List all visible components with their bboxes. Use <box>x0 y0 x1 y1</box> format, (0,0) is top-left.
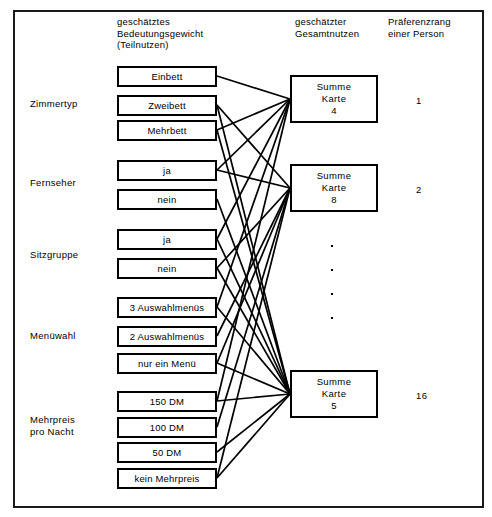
attribute-label-mehrpreis: Mehrpreis pro Nacht <box>30 414 75 438</box>
sum-box-line2: Karte <box>322 388 347 400</box>
sum-box-line1: Summe <box>317 81 352 93</box>
level-box-sitzgruppe-nein[interactable]: nein <box>117 258 217 279</box>
attribute-label-zimmertyp: Zimmertyp <box>30 98 78 110</box>
column-header-weight: geschätztes Bedeutungsgewicht (Teilnutze… <box>117 16 203 51</box>
sum-box-card-number: 8 <box>331 194 337 206</box>
level-box-2-auswahlmenues[interactable]: 2 Auswahlmenüs <box>117 326 217 347</box>
column-header-preference-rank: Präferenzrang einer Person <box>388 16 451 39</box>
level-box-3-auswahlmenues[interactable]: 3 Auswahlmenüs <box>117 297 217 318</box>
level-box-zweibett[interactable]: Zweibett <box>117 95 217 116</box>
level-box-kein-mehrpreis[interactable]: kein Mehrpreis <box>117 468 217 489</box>
sum-box-karte-5[interactable]: Summe Karte 5 <box>290 370 378 418</box>
level-box-100-dm[interactable]: 100 DM <box>117 417 217 438</box>
sum-box-line2: Karte <box>322 93 347 105</box>
vertical-ellipsis <box>331 245 337 341</box>
level-box-mehrbett[interactable]: Mehrbett <box>117 120 217 141</box>
sum-box-karte-4[interactable]: Summe Karte 4 <box>290 75 378 123</box>
attribute-label-sitzgruppe: Sitzgruppe <box>30 249 78 261</box>
level-box-150-dm[interactable]: 150 DM <box>117 391 217 412</box>
column-header-total-utility: geschätzter Gesamtnutzen <box>295 16 359 39</box>
rank-value-16: 16 <box>416 390 428 401</box>
level-box-fernseher-nein[interactable]: nein <box>117 189 217 210</box>
sum-box-karte-8[interactable]: Summe Karte 8 <box>290 164 378 212</box>
diagram-frame <box>13 10 484 508</box>
sum-box-line1: Summe <box>317 170 352 182</box>
rank-value-1: 1 <box>416 95 422 106</box>
rank-value-2: 2 <box>416 184 422 195</box>
level-box-sitzgruppe-ja[interactable]: ja <box>117 229 217 250</box>
diagram-root: geschätztes Bedeutungsgewicht (Teilnutze… <box>0 0 492 517</box>
level-box-50-dm[interactable]: 50 DM <box>117 442 217 463</box>
sum-box-line2: Karte <box>322 182 347 194</box>
level-box-fernseher-ja[interactable]: ja <box>117 160 217 181</box>
level-box-nur-ein-menue[interactable]: nur ein Menü <box>117 353 217 374</box>
sum-box-card-number: 5 <box>331 400 337 412</box>
attribute-label-fernseher: Fernseher <box>30 177 76 189</box>
level-box-einbett[interactable]: Einbett <box>117 66 217 87</box>
sum-box-card-number: 4 <box>331 105 337 117</box>
attribute-label-menuewahl: Menüwahl <box>30 330 76 342</box>
sum-box-line1: Summe <box>317 376 352 388</box>
